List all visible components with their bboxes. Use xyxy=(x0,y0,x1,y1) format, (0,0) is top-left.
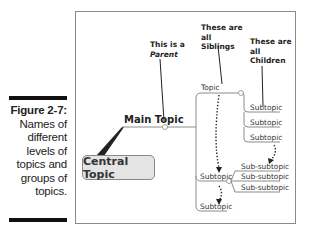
collapse-toggle-icon xyxy=(163,125,168,130)
subtopic-node[interactable]: Subtopic xyxy=(250,133,282,142)
note-children: These are all Children xyxy=(250,37,292,66)
subtopic-node[interactable]: Subtopic xyxy=(250,103,282,112)
sub-subtopic-node[interactable]: Sub-subtopic xyxy=(241,172,289,181)
collapse-toggle-icon xyxy=(239,91,244,96)
sibling-subtopic-middle[interactable]: Subtopic xyxy=(200,172,232,181)
note-siblings: These are all Siblings xyxy=(201,23,243,52)
sub-subtopic-node[interactable]: Sub-subtopic xyxy=(241,162,289,171)
central-topic-node[interactable]: Central Topic xyxy=(82,155,155,180)
sub-subtopic-node[interactable]: Sub-subtopic xyxy=(241,183,289,192)
sibling-subtopic-bottom[interactable]: Subtopic xyxy=(200,202,232,211)
topic-node[interactable]: Topic xyxy=(201,83,220,92)
subtopic-node[interactable]: Subtopic xyxy=(250,118,282,127)
main-topic-node[interactable]: Main Topic xyxy=(124,114,184,125)
central-callout-wedge xyxy=(96,127,124,156)
note-parent: This is a Parent xyxy=(150,40,185,59)
